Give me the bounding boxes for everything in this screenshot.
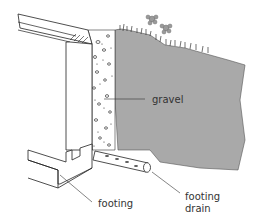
footing-drain-label-line1: footing (185, 191, 220, 202)
footing-label: footing (98, 198, 133, 209)
foundation-drain-illustration (0, 0, 261, 224)
flower-icon (146, 15, 172, 34)
footing (28, 144, 92, 184)
diagram-canvas: gravel footing footing drain (0, 0, 261, 224)
footing-drain-pipe (93, 151, 148, 172)
footing-drain-label-line2: drain (185, 203, 211, 214)
drain-leader (152, 172, 180, 193)
footing-leader (60, 175, 92, 202)
gravel-label: gravel (152, 94, 183, 105)
